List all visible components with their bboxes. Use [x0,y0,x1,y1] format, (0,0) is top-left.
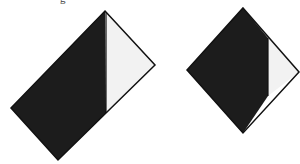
figure-canvas [0,0,300,164]
caption-fragment: g [60,0,66,4]
tilted-rectangle-dark-region [11,11,106,160]
figure: g [0,0,300,164]
tilted-rectangle-shape [11,11,155,160]
diamond-shape [187,8,299,133]
diamond-dark-region [187,8,268,133]
tilted-rectangle-light-triangle [106,12,155,113]
